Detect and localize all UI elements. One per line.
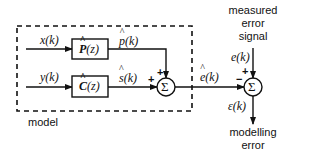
sum1-sign-top: + <box>157 67 163 78</box>
x-signal-label: x(k) <box>40 34 59 46</box>
sum1-sign-left: + <box>148 74 154 85</box>
sum2-sign-top: + <box>242 66 248 77</box>
block-c-label: C(z) <box>79 80 100 92</box>
p-hat-signal-label: p(k) <box>119 35 138 47</box>
eps-signal-label: ε(k) <box>228 100 246 112</box>
modelling-error-label: modelling error <box>222 126 284 152</box>
s-hat-signal-label: s(k) <box>119 72 137 84</box>
summer-1-symbol: Σ <box>161 80 169 93</box>
y-signal-label: y(k) <box>40 71 59 83</box>
measured-error-label: measured error signal <box>222 4 284 43</box>
block-p-label: P(z) <box>79 43 99 55</box>
sum2-sign-left: − <box>236 74 242 85</box>
e-hat-signal-label: e(k) <box>200 71 219 83</box>
model-label: model <box>28 117 58 128</box>
summer-2-symbol: Σ <box>248 80 256 93</box>
e-signal-label: e(k) <box>231 51 250 63</box>
